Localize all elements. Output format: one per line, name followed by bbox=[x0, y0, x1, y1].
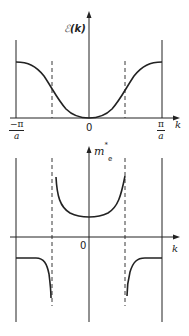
origin-label-bottom: 0 bbox=[80, 241, 86, 251]
mass-axis-arrow-icon bbox=[87, 146, 92, 153]
left-limit-numerator: −π bbox=[9, 120, 24, 131]
k-axis-label-bottom: k bbox=[172, 244, 178, 254]
right-limit-numerator: π bbox=[157, 120, 165, 131]
right-negative-mass-curve bbox=[127, 258, 162, 296]
right-limit-denominator: a bbox=[158, 131, 163, 141]
band-diagram bbox=[0, 0, 189, 336]
left-negative-mass-curve bbox=[16, 258, 51, 298]
mass-superscript: * bbox=[104, 142, 108, 149]
energy-arg: (k) bbox=[70, 23, 86, 34]
right-limit-label: π a bbox=[157, 120, 165, 141]
effective-mass-plot bbox=[10, 151, 175, 322]
left-limit-label: −π a bbox=[9, 120, 24, 141]
energy-axis-arrow-icon bbox=[87, 11, 92, 18]
mass-axis-label: m * e bbox=[94, 146, 112, 160]
k-axis-bottom-arrow-icon bbox=[173, 235, 180, 240]
left-limit-denominator: a bbox=[14, 131, 19, 141]
k-axis-label-top: k bbox=[175, 120, 181, 130]
mass-subscript: e bbox=[108, 155, 112, 163]
origin-label-top: 0 bbox=[86, 123, 92, 133]
energy-axis-label: ℰ(k) bbox=[64, 24, 86, 34]
energy-plot bbox=[10, 16, 175, 118]
positive-mass-curve bbox=[56, 176, 125, 217]
mass-symbol: m bbox=[94, 145, 104, 158]
